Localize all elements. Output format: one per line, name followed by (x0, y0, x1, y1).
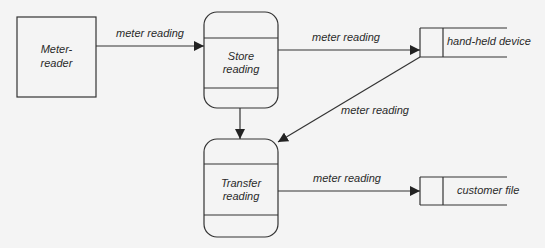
flow-label: meter reading (312, 31, 381, 43)
hand-held-device-label: hand-held device (447, 35, 531, 47)
process-transfer-reading: Transfer reading (204, 139, 278, 237)
transfer-reading-label-line1: Transfer (221, 177, 262, 189)
flow-meter-reader-to-store-reading: meter reading (96, 27, 204, 46)
store-reading-label-line2: reading (223, 63, 261, 75)
flow-transfer-reading-to-customer-file: meter reading (278, 172, 420, 191)
external-entity-meter-reader: Meter- reader (17, 17, 96, 97)
meter-reader-label-line2: reader (41, 57, 74, 69)
process-store-reading: Store reading (204, 12, 278, 108)
customer-file-label: customer file (457, 184, 519, 196)
meter-reader-label-line1: Meter- (41, 43, 73, 55)
data-flow-diagram: Meter- reader Store reading Transfer rea… (0, 0, 545, 248)
store-reading-label-line1: Store (228, 50, 254, 62)
flow-label: meter reading (313, 172, 382, 184)
data-store-customer-file: customer file (420, 177, 519, 205)
flow-label: meter reading (116, 27, 185, 39)
flow-hand-held-device-to-transfer-reading: meter reading (278, 57, 420, 142)
flow-store-reading-to-hand-held-device: meter reading (278, 31, 420, 50)
transfer-reading-label-line2: reading (223, 190, 261, 202)
data-store-hand-held-device: hand-held device (420, 28, 531, 57)
flow-label: meter reading (341, 104, 410, 116)
